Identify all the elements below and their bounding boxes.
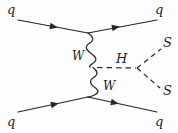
label-quark-out-top: q	[155, 3, 163, 16]
outgoing-quark-bottom-line	[88, 97, 157, 112]
scalar-bottom-line	[137, 68, 160, 88]
higgs-propagator-line	[97, 68, 136, 69]
w-propagator-bottom-line	[88, 68, 98, 98]
label-quark-out-bottom: q	[155, 115, 163, 128]
outgoing-quark-top-line	[88, 20, 157, 33]
label-quark-in-top: q	[7, 3, 15, 16]
label-boson-bottom: W	[103, 80, 115, 92]
label-higgs: H	[116, 52, 127, 65]
w-propagator-top-line	[86, 33, 96, 67]
label-quark-in-bottom: q	[7, 115, 15, 128]
arrowhead-outgoing-quark-bottom	[110, 99, 119, 107]
feynman-diagram-canvas	[0, 0, 178, 133]
feynman-diagram: q q q q W W H S S	[0, 0, 178, 133]
label-scalar-bottom: S	[163, 84, 172, 97]
scalar-top-line	[137, 49, 161, 68]
label-scalar-top: S	[163, 36, 172, 49]
arrowhead-incoming-quark-bottom	[50, 100, 59, 108]
label-boson-top: W	[72, 50, 84, 62]
